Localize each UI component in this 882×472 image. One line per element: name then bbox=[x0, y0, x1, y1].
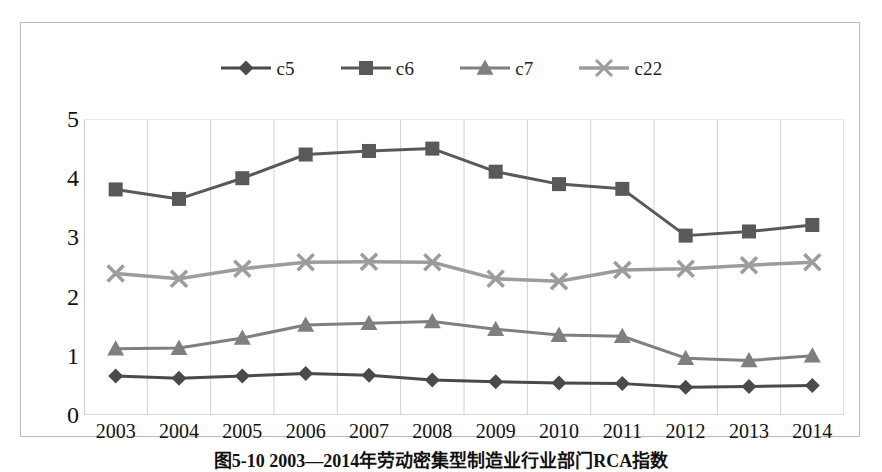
data-point-c5-2005 bbox=[235, 368, 250, 383]
figure-caption: 图5-10 2003—2014年劳动密集型制造业行业部门RCA指数 bbox=[0, 446, 882, 472]
y-tick-label-4: 4 bbox=[45, 166, 79, 190]
legend-marker-triangle-icon bbox=[458, 59, 512, 77]
y-tick-label-0: 0 bbox=[45, 403, 79, 427]
data-point-c5-2004 bbox=[172, 371, 187, 386]
y-tick-label-2: 2 bbox=[45, 285, 79, 309]
data-point-c6-2003 bbox=[109, 182, 123, 196]
data-point-c6-2004 bbox=[172, 192, 186, 206]
y-tick-label-5: 5 bbox=[45, 107, 79, 131]
data-point-c5-2012 bbox=[678, 380, 693, 395]
data-point-c5-2011 bbox=[615, 376, 630, 391]
data-point-c5-2007 bbox=[362, 368, 377, 383]
y-tick-label-1: 1 bbox=[45, 344, 79, 368]
legend-marker-diamond-icon bbox=[219, 59, 273, 77]
y-axis-tick-labels: 543210 bbox=[39, 119, 79, 415]
data-point-c5-2003 bbox=[108, 368, 123, 383]
data-point-c5-2009 bbox=[488, 374, 503, 389]
chart-canvas bbox=[84, 119, 844, 415]
legend-marker-square-icon bbox=[339, 59, 393, 77]
data-point-c5-2013 bbox=[742, 379, 757, 394]
legend-label-c5: c5 bbox=[276, 59, 294, 78]
y-tick-label-3: 3 bbox=[45, 225, 79, 249]
data-point-c6-2006 bbox=[299, 148, 313, 162]
data-point-c5-2006 bbox=[298, 366, 313, 381]
data-point-c5-2010 bbox=[552, 376, 567, 391]
legend-entry-c5[interactable]: c5 bbox=[219, 59, 294, 78]
data-point-c5-2014 bbox=[805, 378, 820, 393]
legend-entry-c7[interactable]: c7 bbox=[458, 59, 533, 78]
data-point-c6-2009 bbox=[489, 165, 503, 179]
data-point-c6-2008 bbox=[425, 142, 439, 156]
legend-label-c6: c6 bbox=[396, 59, 414, 78]
data-point-c6-2007 bbox=[362, 144, 376, 158]
data-point-c6-2012 bbox=[679, 229, 693, 243]
data-point-c6-2005 bbox=[235, 171, 249, 185]
legend-label-c22: c22 bbox=[634, 59, 662, 78]
legend-label-c7: c7 bbox=[515, 59, 533, 78]
data-point-c5-2008 bbox=[425, 373, 440, 388]
data-point-c6-2014 bbox=[805, 218, 819, 232]
legend-entry-c22[interactable]: c22 bbox=[577, 59, 662, 78]
legend-entry-c6[interactable]: c6 bbox=[339, 59, 414, 78]
chart-legend: c5c6c7c22 bbox=[21, 53, 861, 83]
figure-frame: c5c6c7c22 543210 20032004200520062007200… bbox=[20, 22, 860, 437]
plot-area bbox=[84, 119, 844, 415]
data-point-c6-2011 bbox=[615, 182, 629, 196]
data-point-c6-2013 bbox=[742, 224, 756, 238]
legend-marker-cross-icon bbox=[577, 59, 631, 77]
data-point-c6-2010 bbox=[552, 177, 566, 191]
